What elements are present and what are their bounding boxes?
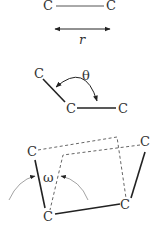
bond-line-bottom <box>55 204 120 214</box>
atom-c-top: C <box>34 66 44 81</box>
atom-c-top-right: C <box>140 134 150 149</box>
atom-c-left: C <box>43 0 53 13</box>
atom-c-top-left: C <box>27 144 37 159</box>
dihedral-symbol: ω <box>43 170 54 185</box>
atom-c-right: C <box>118 101 128 116</box>
rotation-arrow-left-icon <box>9 176 35 200</box>
atom-c-right: C <box>106 0 116 13</box>
bond-line-right <box>131 152 145 198</box>
atom-c-bottom-right: C <box>120 197 130 212</box>
molecular-geometry-diagram: C C r C C C θ C C C C ω <box>0 0 155 232</box>
atom-c-bottom-left: C <box>43 209 53 224</box>
curved-double-arrow-icon <box>56 77 97 101</box>
atom-c-center: C <box>66 101 76 116</box>
rotation-arrow-right-icon <box>61 176 88 200</box>
angle-symbol: θ <box>82 68 90 83</box>
distance-symbol: r <box>79 32 86 47</box>
dihedral-angle-panel: C C C C ω <box>9 134 150 224</box>
bond-angle-panel: C C C θ <box>34 66 128 116</box>
bond-length-panel: C C r <box>43 0 116 47</box>
